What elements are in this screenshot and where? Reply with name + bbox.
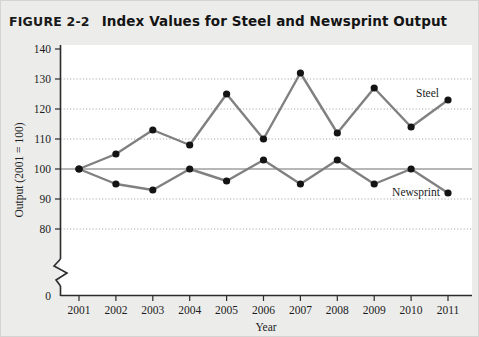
data-point-newsprint-2011 — [444, 189, 451, 196]
chart-area: 08090100110120130140 2001200220032004200… — [1, 35, 479, 337]
data-point-newsprint-2005 — [223, 177, 230, 184]
x-tick-label-2008: 2008 — [326, 304, 349, 316]
y-axis-title: Output (2001 = 100) — [13, 122, 26, 217]
y-tick-label-80: 80 — [40, 223, 52, 235]
data-point-newsprint-2002 — [112, 180, 119, 187]
y-tick-label-120: 120 — [34, 103, 52, 115]
x-tick-label-2003: 2003 — [141, 304, 164, 316]
x-tick-label-2009: 2009 — [363, 304, 386, 316]
data-point-steel-2011 — [444, 96, 451, 103]
data-point-newsprint-2010 — [408, 165, 415, 172]
data-point-steel-2007 — [297, 69, 304, 76]
x-tick-label-2007: 2007 — [289, 304, 312, 316]
figure-container: FIGURE 2-2 Index Values for Steel and Ne… — [0, 0, 479, 337]
x-tick-label-2005: 2005 — [215, 304, 238, 316]
data-point-steel-2002 — [112, 150, 119, 157]
figure-caption: FIGURE 2-2 Index Values for Steel and Ne… — [9, 10, 471, 32]
y-axis-tick-labels: 08090100110120130140 — [34, 43, 52, 302]
x-tick-label-2010: 2010 — [400, 304, 423, 316]
line-chart: 08090100110120130140 2001200220032004200… — [1, 35, 479, 337]
x-axis-tick-labels: 2001200220032004200520062007200820092010… — [68, 304, 460, 316]
data-point-steel-2008 — [334, 129, 341, 136]
figure-title: Index Values for Steel and Newsprint Out… — [102, 13, 447, 29]
data-point-newsprint-2003 — [149, 186, 156, 193]
series-label-newsprint: Newsprint — [392, 186, 441, 199]
y-tick-label-110: 110 — [34, 133, 51, 145]
series-label-steel: Steel — [416, 87, 439, 99]
data-point-newsprint-2007 — [297, 180, 304, 187]
x-tick-label-2004: 2004 — [178, 304, 201, 316]
data-point-steel-2005 — [223, 90, 230, 97]
data-point-newsprint-2001 — [75, 165, 82, 172]
y-tick-label-0: 0 — [45, 290, 51, 302]
data-point-newsprint-2008 — [334, 156, 341, 163]
figure-number: FIGURE 2-2 — [9, 14, 90, 29]
data-point-newsprint-2006 — [260, 156, 267, 163]
x-tick-label-2006: 2006 — [252, 304, 275, 316]
y-axis-ticks — [55, 49, 61, 229]
data-point-newsprint-2004 — [186, 165, 193, 172]
x-axis-ticks — [79, 296, 448, 302]
data-point-steel-2004 — [186, 141, 193, 148]
y-tick-label-130: 130 — [34, 73, 52, 85]
data-point-newsprint-2009 — [371, 180, 378, 187]
data-point-steel-2003 — [149, 126, 156, 133]
x-tick-label-2001: 2001 — [68, 304, 91, 316]
x-tick-label-2002: 2002 — [104, 304, 127, 316]
y-tick-label-90: 90 — [40, 193, 52, 205]
x-tick-label-2011: 2011 — [437, 304, 460, 316]
x-axis-title: Year — [255, 321, 276, 333]
y-tick-label-140: 140 — [34, 43, 52, 55]
y-tick-label-100: 100 — [34, 163, 52, 175]
data-point-steel-2009 — [371, 84, 378, 91]
data-point-steel-2006 — [260, 135, 267, 142]
data-point-steel-2010 — [408, 123, 415, 130]
